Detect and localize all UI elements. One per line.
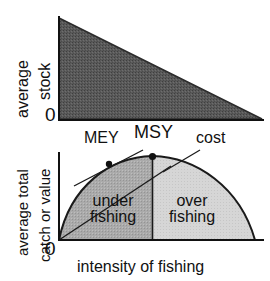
x-axis-title: intensity of fishing bbox=[77, 258, 204, 276]
over-fishing-label-line2: fishing bbox=[157, 209, 227, 225]
top-y-axis-label-stock: stock bbox=[36, 63, 54, 100]
over-fishing-label: over fishing bbox=[157, 193, 227, 226]
average-stock-area bbox=[59, 18, 262, 119]
mey-point-marker bbox=[106, 161, 112, 167]
bottom-y-axis-label-line1: average total bbox=[14, 169, 31, 256]
top-y-axis-label-average: average bbox=[14, 60, 32, 118]
under-fishing-label-line2: fishing bbox=[78, 209, 148, 225]
bottom-origin-label: 0 bbox=[45, 238, 56, 260]
msy-point-marker bbox=[149, 153, 156, 160]
msy-annotation-label: MSY bbox=[134, 122, 173, 143]
top-origin-label: 0 bbox=[45, 104, 56, 126]
under-fishing-label-line1: under bbox=[78, 193, 148, 209]
mey-annotation-label: MEY bbox=[84, 129, 119, 147]
over-fishing-label-line1: over bbox=[157, 193, 227, 209]
under-fishing-label: under fishing bbox=[78, 193, 148, 226]
fishery-bioeconomic-diagram: average stock 0 average total catch or v… bbox=[0, 0, 270, 281]
top-panel-plot bbox=[58, 16, 264, 121]
cost-annotation-label: cost bbox=[196, 129, 225, 147]
